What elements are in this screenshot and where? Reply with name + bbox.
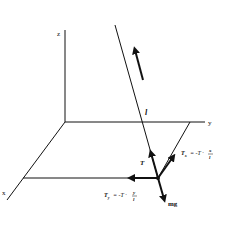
mass-point (156, 176, 160, 180)
tx-den: l (209, 155, 211, 160)
svg-text:Ty: Ty (104, 192, 110, 200)
z-axis-label: z (57, 30, 60, 38)
ty-sub: y (107, 195, 110, 200)
ty-formula: Ty = -T · y l (104, 190, 137, 202)
tx-sub: x (184, 153, 187, 158)
tx-num: x (208, 148, 212, 153)
motion-arrow (135, 50, 143, 80)
gravity-label: mg (168, 200, 178, 208)
gravity-arrow (158, 178, 164, 199)
tx-arrow (158, 157, 173, 178)
ty-den: l (133, 197, 135, 202)
x-axis (7, 122, 65, 200)
tx-formula: Tx = -T · x l (181, 148, 213, 160)
y-axis-label: y (208, 119, 212, 127)
tension-arrow (151, 153, 158, 178)
tx-rhs: = -T · (190, 150, 204, 156)
x-axis-label: x (2, 189, 6, 197)
svg-text:Tx: Tx (181, 150, 187, 158)
rope-length-label: l (145, 108, 148, 117)
pendulum-force-diagram: z y x l T Tx = -T · x l Ty = -T · y l mg (0, 0, 230, 225)
ty-rhs: = -T · (113, 192, 127, 198)
tension-label: T (140, 159, 145, 167)
ty-num: y (132, 190, 136, 195)
